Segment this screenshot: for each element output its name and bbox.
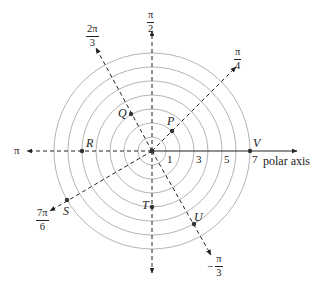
neg-pi-over-3-axis-line [152, 151, 211, 255]
point-p [170, 129, 174, 133]
7pi-over-6-axis-line [50, 151, 152, 211]
pi-over-4-denominator: 4 [235, 60, 240, 72]
neg-pi-over-3-numerator: π [215, 254, 222, 267]
point-label-r: R [86, 137, 93, 149]
neg-pi-over-3-fraction: π 3 [215, 254, 222, 278]
pi-axis-label: π [14, 145, 20, 156]
pi-over-4-axis-line [152, 67, 236, 151]
neg-pi-over-3-label: − π 3 [207, 254, 223, 278]
tick-label-5: 5 [224, 154, 230, 165]
point-label-p: P [167, 115, 174, 127]
minus-sign: − [207, 261, 213, 272]
tick-label-3: 3 [196, 154, 202, 165]
2pi-over-3-numerator: 2π [86, 24, 99, 37]
polar-diagram: P Q R S T U V 1 3 5 7 polar axis π π 2 π… [0, 0, 319, 290]
tick-label-1: 1 [167, 154, 173, 165]
point-label-s: S [63, 205, 69, 217]
pi-over-2-denominator: 2 [148, 23, 153, 35]
point-label-t: T [142, 199, 149, 211]
7pi-over-6-denominator: 6 [40, 221, 45, 233]
point-label-v: V [253, 137, 260, 149]
point-label-u: U [194, 211, 203, 223]
neg-pi-over-3-denominator: 3 [216, 267, 221, 279]
pi-over-2-numerator: π [147, 10, 154, 23]
pi-over-4-label: π 4 [234, 47, 241, 71]
tick-label-7: 7 [252, 154, 258, 165]
origin-point [150, 149, 155, 154]
2pi-over-3-label: 2π 3 [86, 24, 99, 48]
point-s [65, 198, 69, 202]
pi-over-4-numerator: π [234, 47, 241, 60]
point-t [150, 205, 154, 209]
point-r [80, 149, 84, 153]
point-q [129, 112, 133, 116]
7pi-over-6-numerator: 7π [36, 208, 49, 221]
polar-axis-label: polar axis [263, 155, 310, 167]
2pi-over-3-denominator: 3 [90, 37, 95, 49]
polar-grid-svg [0, 0, 319, 290]
point-label-q: Q [118, 107, 127, 119]
pi-over-2-label: π 2 [147, 10, 154, 34]
7pi-over-6-label: 7π 6 [36, 208, 49, 232]
